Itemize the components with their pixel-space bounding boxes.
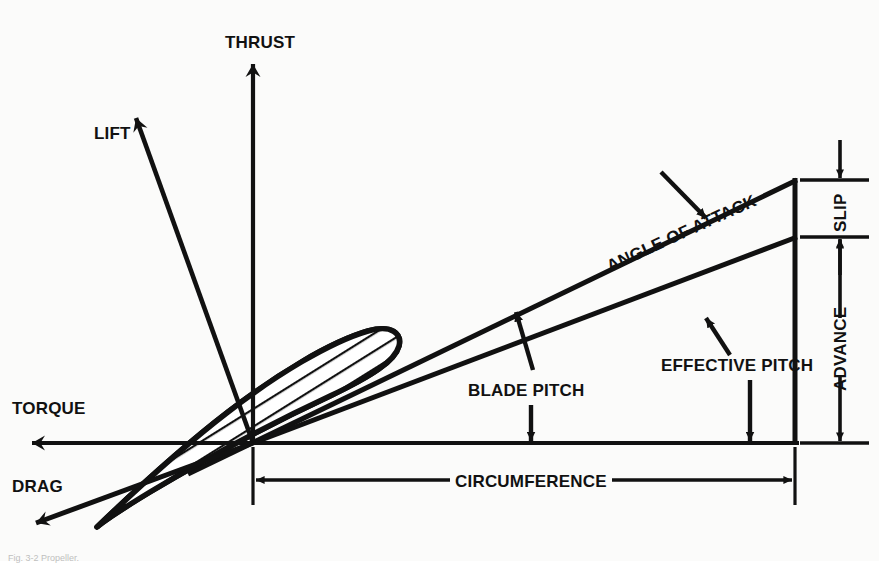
force-vectors	[32, 64, 253, 523]
effective-pitch-leader-up	[706, 318, 730, 355]
lift-arrow	[136, 118, 253, 443]
thrust-label: THRUST	[225, 33, 296, 52]
slip-advance-dimension	[800, 140, 869, 443]
blade-pitch-label: BLADE PITCH	[468, 381, 584, 400]
angle-of-attack-leader	[661, 172, 706, 218]
circumference-label: CIRCUMFERENCE	[455, 472, 607, 491]
drag-arrow	[36, 443, 253, 523]
lift-label: LIFT	[94, 124, 131, 143]
drag-label: DRAG	[12, 477, 63, 496]
figure-caption: Fig. 3-2 Propeller.	[8, 553, 79, 563]
advance-label: ADVANCE	[831, 307, 850, 391]
slip-label: SLIP	[831, 193, 850, 232]
effective-pitch-label: EFFECTIVE PITCH	[661, 356, 813, 375]
torque-label: TORQUE	[12, 399, 86, 418]
airfoil-section	[80, 315, 420, 540]
angle-of-attack-label: ANGLE OF ATTACK	[604, 191, 760, 276]
